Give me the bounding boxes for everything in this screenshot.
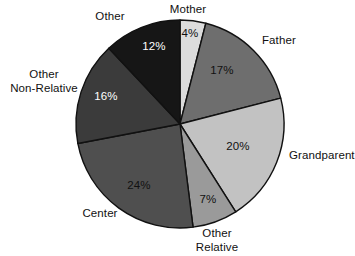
pie-value-label-other-non-relative: 16%	[94, 90, 117, 102]
pie-value-label-grandparent: 20%	[226, 140, 249, 152]
pie-chart-figure: 4%17%20%7%24%16%12% MotherFatherGrandpar…	[0, 0, 355, 256]
pie-category-label-other-non-relative: OtherNon-Relative	[10, 68, 78, 94]
pie-category-label-center: Center	[82, 207, 117, 219]
category-label-line1: Center	[82, 207, 117, 219]
pie-value-label-mother: 4%	[182, 27, 199, 39]
category-label-line2: Relative	[196, 241, 238, 253]
category-label-line1: Grandparent	[289, 149, 355, 161]
pie-value-label-father: 17%	[210, 64, 233, 76]
pie-value-label-other-relative: 7%	[200, 193, 217, 205]
pie-category-label-other: Other	[95, 10, 124, 22]
pie-category-label-other-relative: OtherRelative	[196, 227, 238, 253]
category-label-line1: Other	[95, 10, 124, 22]
pie-value-label-center: 24%	[127, 179, 150, 191]
category-label-line1: Mother	[170, 3, 206, 15]
category-label-line2: Non-Relative	[10, 82, 78, 94]
pie-slices-group	[76, 20, 284, 228]
pie-category-label-mother: Mother	[170, 3, 206, 15]
pie-category-label-father: Father	[262, 34, 296, 46]
pie-category-label-grandparent: Grandparent	[289, 149, 355, 161]
category-label-line1: Father	[262, 34, 296, 46]
pie-chart-svg: 4%17%20%7%24%16%12% MotherFatherGrandpar…	[0, 0, 355, 256]
pie-value-label-other: 12%	[142, 40, 165, 52]
category-label-line1: Other	[29, 68, 58, 80]
category-label-line1: Other	[202, 227, 231, 239]
